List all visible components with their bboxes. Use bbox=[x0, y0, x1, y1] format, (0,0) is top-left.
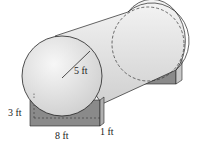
tank-diagram bbox=[0, 0, 198, 150]
front-end-circle bbox=[22, 36, 102, 116]
support-width-label: 1 ft bbox=[100, 126, 114, 137]
support-height-label: 3 ft bbox=[8, 107, 22, 118]
support-length-label: 8 ft bbox=[55, 130, 69, 141]
radius-label: 5 ft bbox=[74, 65, 88, 76]
